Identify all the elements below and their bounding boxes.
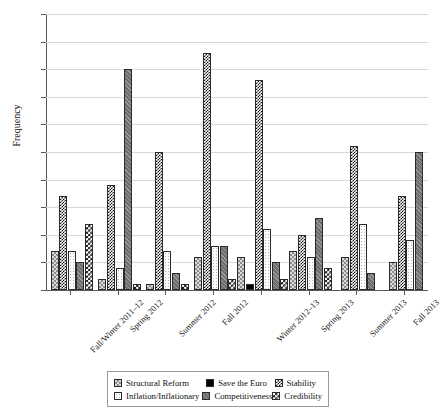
legend-swatch-competitiveness xyxy=(202,392,210,400)
bar-structural xyxy=(341,257,349,290)
bar-inflation xyxy=(163,251,171,290)
x-axis-line xyxy=(46,290,428,291)
bar-group xyxy=(51,14,93,290)
bar-stability xyxy=(155,152,163,290)
bar-structural xyxy=(289,251,297,290)
x-axis-tick-label: Fall 2013 xyxy=(412,298,441,327)
bar-group xyxy=(289,14,331,290)
legend-item-credibility: Credibility xyxy=(272,391,322,401)
x-axis-tick-label: Winter 2012–13 xyxy=(275,298,321,344)
bar-structural xyxy=(146,284,154,290)
bar-structural xyxy=(98,279,106,290)
x-axis-tick-mark xyxy=(118,290,119,295)
x-axis-tick-mark xyxy=(404,290,405,295)
bar-inflation xyxy=(263,229,271,290)
bar-competitiveness xyxy=(76,262,84,290)
legend-item-competitiveness: Competitiveness xyxy=(202,391,272,401)
bar-group xyxy=(341,14,375,290)
bar-stability xyxy=(350,146,358,290)
bar-structural xyxy=(51,251,59,290)
bar-structural xyxy=(389,262,397,290)
legend-swatch-stability xyxy=(275,379,283,387)
bar-credibility xyxy=(324,268,332,290)
bar-competitiveness xyxy=(315,218,323,290)
legend-row-top: Structural Reform Save the Euro Stabilit… xyxy=(114,376,322,389)
x-axis-tick-label: Spring 2013 xyxy=(319,298,355,334)
bar-inflation xyxy=(406,240,414,290)
chart-legend: Structural Reform Save the Euro Stabilit… xyxy=(107,371,329,407)
legend-item-save-the-euro: Save the Euro xyxy=(206,378,274,388)
bar-inflation xyxy=(211,246,219,290)
bar-stability xyxy=(107,185,115,290)
legend-label-inflation: Inflation/Inflationary xyxy=(126,391,199,401)
x-axis-tick-mark xyxy=(309,290,310,295)
x-axis-tick-label: Summer 2013 xyxy=(369,298,410,339)
bar-competitiveness xyxy=(367,273,375,290)
bar-competitiveness xyxy=(220,246,228,290)
legend-swatch-save-the-euro xyxy=(206,379,214,387)
bar-credibility xyxy=(85,224,93,290)
bar-euro xyxy=(246,284,254,290)
bar-group xyxy=(98,14,140,290)
bar-structural xyxy=(237,257,245,290)
legend-label-save-the-euro: Save the Euro xyxy=(218,378,267,388)
legend-label-structural-reform: Structural Reform xyxy=(126,378,189,388)
bar-inflation xyxy=(359,224,367,290)
bar-stability xyxy=(398,196,406,290)
legend-label-stability: Stability xyxy=(287,378,316,388)
bar-stability xyxy=(255,80,263,290)
legend-swatch-inflation xyxy=(114,392,122,400)
bar-inflation xyxy=(68,251,76,290)
legend-item-stability: Stability xyxy=(275,378,322,388)
x-axis-tick-mark xyxy=(70,290,71,295)
bar-competitiveness xyxy=(172,273,180,290)
legend-label-competitiveness: Competitiveness xyxy=(214,391,272,401)
bar-stability xyxy=(59,196,67,290)
bar-credibility xyxy=(280,279,288,290)
legend-item-structural-reform: Structural Reform xyxy=(114,378,206,388)
legend-item-inflation: Inflation/Inflationary xyxy=(114,391,202,401)
legend-row-bottom: Inflation/Inflationary Competitiveness C… xyxy=(114,389,322,402)
bar-inflation xyxy=(307,257,315,290)
legend-label-credibility: Credibility xyxy=(284,391,322,401)
x-axis-tick-label: Fall 2012 xyxy=(221,298,250,327)
bar-stability xyxy=(298,235,306,290)
bar-inflation xyxy=(116,268,124,290)
bar-competitiveness xyxy=(272,262,280,290)
bar-group xyxy=(389,14,423,290)
bar-structural xyxy=(194,257,202,290)
bar-stability xyxy=(203,53,211,290)
bar-credibility xyxy=(228,279,236,290)
x-axis-tick-mark xyxy=(165,290,166,295)
x-axis-tick-mark xyxy=(213,290,214,295)
plot-area xyxy=(46,14,428,290)
y-axis-title: Frequency xyxy=(11,66,22,186)
bar-credibility xyxy=(181,284,189,290)
x-axis-tick-mark xyxy=(261,290,262,295)
legend-swatch-structural-reform xyxy=(114,379,122,387)
bar-group xyxy=(237,14,288,290)
bar-group xyxy=(146,14,188,290)
legend-swatch-credibility xyxy=(272,392,280,400)
bar-credibility xyxy=(133,284,141,290)
bar-competitiveness xyxy=(415,152,423,290)
x-axis-tick-label: Summer 2012 xyxy=(178,298,219,339)
bar-competitiveness xyxy=(124,69,132,290)
x-axis-tick-mark xyxy=(356,290,357,295)
y-axis-tick-mark xyxy=(41,290,46,291)
bar-group xyxy=(194,14,236,290)
